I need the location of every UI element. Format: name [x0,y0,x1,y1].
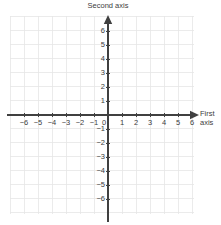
x-axis-tick-label: −3 [62,119,71,127]
x-axis-tick-label: 3 [148,119,152,127]
y-axis-tick-label: −1 [96,125,105,133]
x-axis-tick-label: −2 [76,119,85,127]
y-axis-tick-label: −2 [96,139,105,147]
y-axis-tick-label: 4 [101,55,105,63]
y-axis-tick-label: −6 [96,195,105,203]
horizontal-axis-title: First axis [200,110,221,128]
y-axis-tick-label: −5 [96,181,105,189]
x-axis-tick-label: 5 [176,119,180,127]
coordinate-grid-figure: Second axis First axis −6−5−4−3−2−101234… [0,0,221,225]
y-axis-tick-label: 2 [101,83,105,91]
x-axis-tick-label: 1 [120,119,124,127]
y-axis-tick-label: −4 [96,167,105,175]
x-axis-tick-label: −4 [48,119,57,127]
y-axis-tick-label: 6 [101,27,105,35]
x-axis-tick-label: 6 [190,119,194,127]
x-axis-tick-label: 4 [162,119,166,127]
y-axis-tick-label: −3 [96,153,105,161]
y-axis-tick-label: 5 [101,41,105,49]
y-axis-tick-label: 1 [101,97,105,105]
vertical-axis-title: Second axis [88,2,129,11]
x-axis-tick-label: −6 [20,119,29,127]
x-axis-tick-label: 2 [134,119,138,127]
coordinate-plane-svg [0,0,221,225]
horizontal-axis-title-line1: First [200,109,215,118]
horizontal-axis-title-line2: axis [200,118,213,127]
x-axis-tick-label: −5 [34,119,43,127]
y-axis-tick-label: 3 [101,69,105,77]
